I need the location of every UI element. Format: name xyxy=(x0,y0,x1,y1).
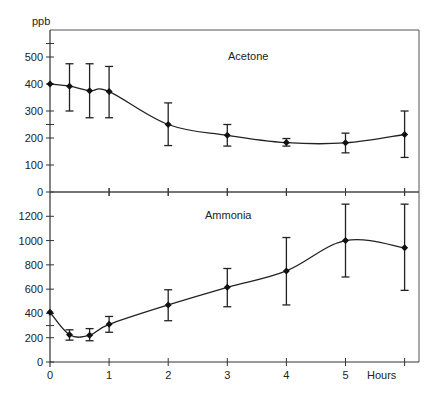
data-point-marker xyxy=(401,131,408,138)
y-tick-label: 200 xyxy=(25,332,43,344)
y-tick-label: 1000 xyxy=(19,235,43,247)
data-point-marker xyxy=(283,267,290,274)
data-point-marker xyxy=(342,139,349,146)
two-panel-line-chart: ppb 0100200300400500 0200400600800100012… xyxy=(0,0,441,398)
top-panel-title: Acetone xyxy=(228,50,268,62)
data-point-marker xyxy=(86,332,93,339)
y-tick-label: 0 xyxy=(37,186,43,198)
y-tick-label: 400 xyxy=(25,78,43,90)
x-tick-label: 0 xyxy=(47,369,53,381)
data-point-marker xyxy=(283,139,290,146)
y-tick-label: 0 xyxy=(37,356,43,368)
y-tick-label: 600 xyxy=(25,283,43,295)
x-tick-label: 1 xyxy=(106,369,112,381)
y-tick-label: 500 xyxy=(25,51,43,63)
y-tick-label: 200 xyxy=(25,132,43,144)
data-point-marker xyxy=(47,81,54,88)
y-tick-label: 800 xyxy=(25,259,43,271)
x-tick-label: 2 xyxy=(165,369,171,381)
x-tick-label: 5 xyxy=(342,369,348,381)
x-tick-label: 3 xyxy=(224,369,230,381)
data-point-marker xyxy=(165,121,172,128)
y-tick-label: 100 xyxy=(25,159,43,171)
acetone-panel: 0100200300400500 xyxy=(25,30,419,198)
data-point-marker xyxy=(165,301,172,308)
y-tick-label: 400 xyxy=(25,307,43,319)
x-tick-label: 4 xyxy=(283,369,289,381)
y-tick-label: 1200 xyxy=(19,210,43,222)
x-unit-label: Hours xyxy=(367,369,397,381)
bottom-panel-title: Ammonia xyxy=(205,209,252,221)
data-point-marker xyxy=(224,284,231,291)
data-point-marker xyxy=(66,83,73,90)
data-point-marker xyxy=(224,132,231,139)
data-point-marker xyxy=(86,87,93,94)
data-point-marker xyxy=(342,237,349,244)
data-point-marker xyxy=(106,321,113,328)
y-tick-label: 300 xyxy=(25,105,43,117)
y-unit-label: ppb xyxy=(32,15,50,27)
data-point-marker xyxy=(106,88,113,95)
data-point-marker xyxy=(401,244,408,251)
